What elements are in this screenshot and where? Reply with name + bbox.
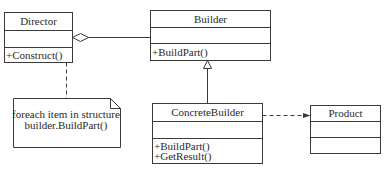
builder-name: Builder	[194, 13, 227, 25]
class-product[interactable]: Product	[311, 106, 381, 154]
class-builder[interactable]: Builder +BuildPart()	[151, 11, 271, 61]
product-name: Product	[328, 107, 362, 119]
director-operation: +Construct()	[6, 49, 63, 62]
dependency-concretebuilder-product	[263, 113, 311, 118]
director-name: Director	[20, 15, 57, 27]
aggregation-diamond-icon	[73, 34, 89, 42]
uml-class-diagram: Director +Construct() Builder +BuildPart…	[0, 0, 386, 169]
inheritance-triangle-icon	[204, 61, 212, 69]
note-line-2: builder.BuildPart()	[25, 119, 108, 132]
class-concrete-builder[interactable]: ConcreteBuilder +BuildPart() +GetResult(…	[153, 104, 263, 164]
aggregation-director-builder	[73, 34, 151, 42]
generalization-concretebuilder-builder	[204, 61, 212, 104]
note[interactable]: foreach item in structure builder.BuildP…	[12, 99, 120, 148]
concrete-builder-operation-2: +GetResult()	[154, 150, 212, 163]
dependency-arrow-icon	[303, 113, 311, 118]
builder-operation: +BuildPart()	[152, 46, 208, 59]
concrete-builder-name: ConcreteBuilder	[171, 106, 244, 118]
class-director[interactable]: Director +Construct()	[5, 13, 73, 63]
